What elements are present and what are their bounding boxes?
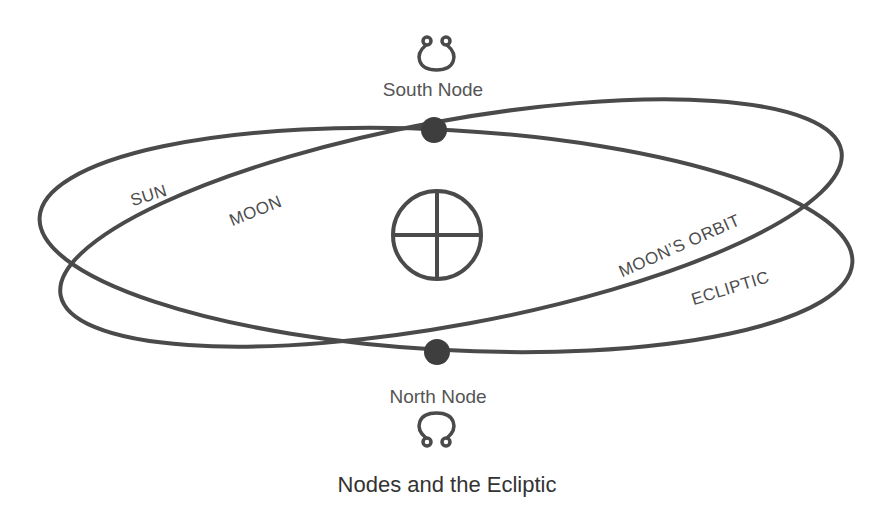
north-node-label: North Node — [389, 386, 486, 408]
north-node-dot — [424, 339, 450, 365]
diagram-title: Nodes and the Ecliptic — [338, 472, 557, 498]
south-node-label: South Node — [383, 79, 483, 101]
nodes-ecliptic-diagram: South Node North Node SUN MOON MOON’S OR… — [0, 0, 893, 507]
ecliptic-ellipse — [33, 107, 858, 372]
south-node-symbol-icon — [419, 37, 454, 70]
north-node-symbol-icon — [419, 413, 454, 446]
orbit-diagram-svg — [0, 0, 893, 507]
earth-symbol-icon — [393, 191, 481, 279]
south-node-dot — [421, 117, 447, 143]
